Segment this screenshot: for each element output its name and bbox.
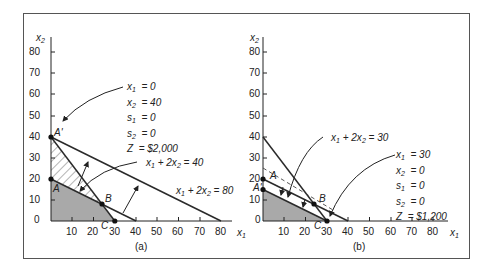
callout-line: Z = $1,200	[396, 211, 447, 224]
x-tick: 60	[172, 226, 183, 237]
x-tick: 80	[427, 226, 438, 237]
y-tick: 60	[249, 88, 260, 99]
point-a-label: A	[270, 170, 277, 181]
line-label-x1-2x2-40: x1 + 2x2 = 40	[146, 157, 203, 171]
x-tick: 20	[299, 226, 310, 237]
point-b-label: B	[105, 193, 112, 204]
callout-line: s1 = 0	[396, 180, 447, 196]
y-tick: 60	[29, 88, 40, 99]
callout-line: x2 = 40	[127, 97, 178, 113]
x-tick: 70	[406, 226, 417, 237]
callout-line: s2 = 0	[127, 128, 178, 144]
x-tick: 70	[194, 226, 205, 237]
point-a-prime-label: A'	[54, 127, 63, 138]
x-tick: 80	[215, 226, 226, 237]
line-label-x1-2x2-30: x1 + 2x2 = 30	[331, 132, 388, 146]
line-label-x1-2x2-80: x1 + 2x2 = 80	[176, 185, 233, 199]
y-tick: 10	[29, 194, 40, 205]
panel-b-y-axis-label: x2	[250, 32, 259, 46]
point-a-prime-label: A'	[253, 182, 262, 193]
y-tick: 30	[29, 152, 40, 163]
x-tick: 10	[278, 226, 289, 237]
y-tick: 80	[29, 46, 40, 57]
y-tick: 20	[29, 173, 40, 184]
callout-line: x1 = 30	[396, 149, 447, 165]
x-tick: 10	[66, 226, 77, 237]
x-tick: 50	[363, 226, 374, 237]
callout-line: s1 = 0	[127, 112, 178, 128]
x-tick: 50	[151, 226, 162, 237]
y-tick: 30	[249, 152, 260, 163]
callout-line: x2 = 0	[396, 165, 447, 181]
x-tick: 20	[87, 226, 98, 237]
y-tick: 50	[249, 110, 260, 121]
y-tick: 70	[249, 67, 260, 78]
panel-b-x-axis-label: x1	[450, 227, 459, 241]
y-tick: 0	[34, 214, 40, 225]
point-c-label: C	[314, 220, 321, 231]
y-tick: 70	[29, 67, 40, 78]
panel-a-solution-callout: x1 = 0 x2 = 40 s1 = 0 s2 = 0 Z = $2,000	[127, 81, 178, 156]
y-tick: 40	[29, 131, 40, 142]
callout-line: x1 = 0	[127, 81, 178, 97]
panel-b-caption: (b)	[353, 241, 365, 252]
y-tick: 40	[249, 131, 260, 142]
x-tick: 60	[385, 226, 396, 237]
x-tick: 40	[130, 226, 141, 237]
y-tick: 50	[29, 110, 40, 121]
x-tick: 30	[321, 226, 332, 237]
panel-a-caption: (a)	[135, 241, 147, 252]
point-c-label: C	[101, 220, 108, 231]
panel-b-solution-callout: x1 = 30 x2 = 0 s1 = 0 s2 = 0 Z = $1,200	[396, 149, 447, 224]
panel-a-y-axis-label: x2	[36, 32, 45, 46]
point-a-label: A	[53, 183, 60, 194]
panel-a-x-axis-label: x1	[237, 227, 246, 241]
callout-line: s2 = 0	[396, 196, 447, 212]
x-tick: 40	[342, 226, 353, 237]
point-b-label: B	[319, 193, 326, 204]
callout-line: Z = $2,000	[127, 143, 178, 156]
y-tick: 80	[249, 46, 260, 57]
y-tick: 0	[255, 214, 261, 225]
y-tick: 10	[249, 194, 260, 205]
x-tick: 30	[109, 226, 120, 237]
